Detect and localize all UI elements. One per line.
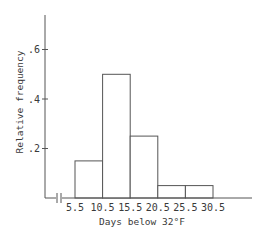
x-tick-label: 15.5 xyxy=(118,202,142,213)
x-tick-label: 25.5 xyxy=(173,202,197,213)
histogram-bar xyxy=(158,186,186,198)
x-axis-title: Days below 32°F xyxy=(99,216,185,227)
x-tick-label: 30.5 xyxy=(201,202,225,213)
y-tick-label: .6 xyxy=(28,44,40,55)
x-tick-label: 5.5 xyxy=(66,202,84,213)
histogram-bar xyxy=(130,136,158,198)
histogram-chart: .2.4.6 5.510.515.520.525.530.5 Days belo… xyxy=(0,0,265,240)
histogram-bar xyxy=(75,161,103,198)
y-tick-label: .2 xyxy=(28,143,40,154)
x-tick-label: 10.5 xyxy=(91,202,115,213)
y-axis-title: Relative frequency xyxy=(14,50,25,153)
histogram-bar xyxy=(103,74,131,198)
histogram-bars xyxy=(75,74,213,198)
x-tick-labels: 5.510.515.520.525.530.5 xyxy=(66,202,225,213)
x-tick-label: 20.5 xyxy=(146,202,170,213)
histogram-bar xyxy=(185,186,213,198)
y-tick-label: .4 xyxy=(28,94,40,105)
